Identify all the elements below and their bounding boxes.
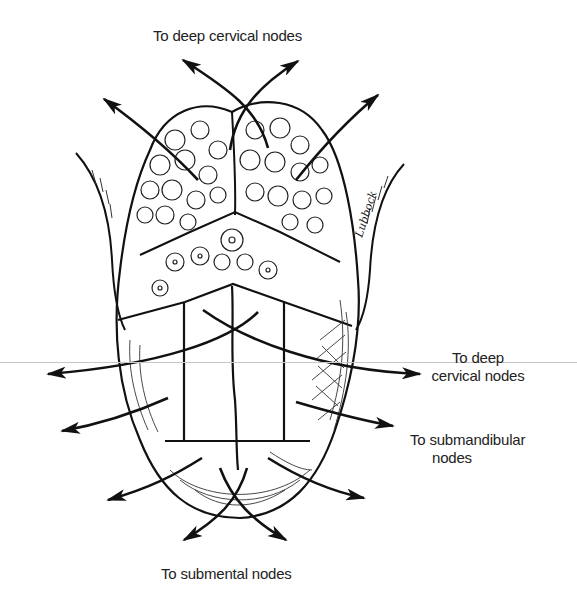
label-line-2: cervical nodes (431, 367, 524, 384)
label-submandibular: To submandibular nodes (410, 431, 525, 467)
drainage-arrows (48, 60, 420, 540)
tongue-lymphatic-diagram: Lubbock (0, 0, 577, 602)
arrow-tip-left (108, 458, 202, 500)
median-groove (232, 286, 238, 470)
artist-signature: Lubbock (352, 189, 380, 240)
arrow-lower-right (296, 402, 393, 426)
label-deep-cervical-top: To deep cervical nodes (153, 27, 302, 45)
arrow-mid-left (48, 312, 258, 374)
label-line-1: To submandibular (410, 431, 525, 448)
label-submental: To submental nodes (161, 565, 292, 583)
arrow-tip-cross-left (184, 468, 247, 540)
arrow-lower-left (62, 398, 168, 431)
arrow-mid-right (203, 310, 420, 374)
label-line-2: nodes (410, 449, 525, 467)
label-deep-cervical-right: To deep cervical nodes (418, 349, 538, 385)
label-line-1: To deep (452, 349, 504, 366)
